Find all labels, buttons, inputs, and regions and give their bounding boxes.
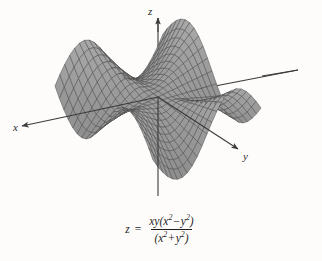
equation-denominator: (x2+y2) [151, 229, 191, 245]
denominator-close-paren: ) [185, 232, 189, 244]
axis-label-y: y [243, 151, 248, 162]
axis-label-z: z [148, 6, 152, 17]
numerator-operator: − [172, 215, 181, 227]
axis-label-x: x [13, 122, 18, 133]
equation-fraction: xy(x2−y2) (x2+y2) [146, 214, 196, 244]
equation-equals-sign: = [134, 223, 143, 235]
numerator-lead: xy [149, 215, 159, 227]
surface-plot-figure: x y z z = xy(x2−y2) (x2+y2) [0, 0, 322, 261]
equation-numerator: xy(x2−y2) [146, 214, 196, 229]
denominator-operator: + [167, 232, 176, 244]
equation-caption: z = xy(x2−y2) (x2+y2) [0, 214, 322, 244]
equation-lhs: z [125, 223, 129, 235]
numerator-close-paren: ) [190, 215, 194, 227]
x-axis-positive-tip [262, 70, 298, 76]
